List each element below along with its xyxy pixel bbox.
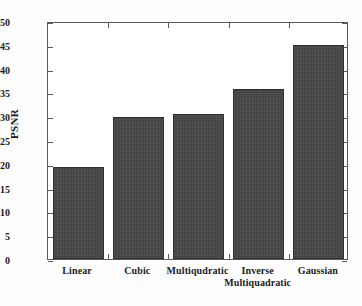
y-axis-tick-label: 0 <box>0 255 10 266</box>
x-axis-tick-label: Cubic <box>124 265 150 276</box>
bar <box>113 117 164 259</box>
y-axis-tick-label: 20 <box>0 159 10 170</box>
plot-area <box>47 22 348 260</box>
y-axis-tick-label: 25 <box>0 136 10 147</box>
y-axis-tick-label: 35 <box>0 88 10 99</box>
bar <box>233 89 284 259</box>
x-axis-tick-label-line: Multiqudratic <box>167 265 229 276</box>
y-axis-tick-right <box>342 261 347 262</box>
x-axis-tick-top <box>289 23 290 28</box>
y-axis-tick <box>48 142 53 143</box>
x-axis-tick-label: Gaussian <box>298 265 338 276</box>
y-axis-tick-right <box>342 23 347 24</box>
x-axis-tick-label-line: Cubic <box>124 265 150 276</box>
y-axis-tick-label: 45 <box>0 40 10 51</box>
y-axis-tick <box>48 118 53 119</box>
x-axis-tick-label-line: Inverse <box>242 265 274 276</box>
x-axis-tick <box>108 254 109 259</box>
y-axis-tick <box>48 23 53 24</box>
x-axis-tick-label-line: Linear <box>62 265 92 276</box>
y-axis-tick <box>48 261 53 262</box>
y-axis-tick-label: 5 <box>0 231 10 242</box>
y-axis-tick <box>48 47 53 48</box>
x-axis-tick-top <box>229 23 230 28</box>
y-axis-tick-label: 50 <box>0 17 10 28</box>
bar <box>293 45 344 259</box>
x-axis-tick-label: Linear <box>62 265 92 276</box>
bar-chart-figure: PSNR 05101520253035404550 LinearCubicMul… <box>0 0 362 306</box>
x-axis-tick-label-line: Multiquadratic <box>224 277 291 288</box>
x-axis-tick-label: Multiqudratic <box>167 265 229 276</box>
bar <box>173 114 224 259</box>
x-axis-tick <box>168 254 169 259</box>
x-axis-tick-label: InverseMultiquadratic <box>224 265 291 288</box>
y-axis-tick-label: 15 <box>0 183 10 194</box>
x-axis-tick-label-line: Gaussian <box>298 265 338 276</box>
x-axis-tick-top <box>168 23 169 28</box>
y-axis-tick-label: 40 <box>0 64 10 75</box>
x-axis-tick-top <box>108 23 109 28</box>
x-axis-tick <box>229 254 230 259</box>
x-axis-tick <box>289 254 290 259</box>
y-axis-tick-label: 30 <box>0 112 10 123</box>
y-axis-tick <box>48 71 53 72</box>
bar <box>53 167 104 259</box>
y-axis-tick <box>48 94 53 95</box>
y-axis-tick-label: 10 <box>0 207 10 218</box>
